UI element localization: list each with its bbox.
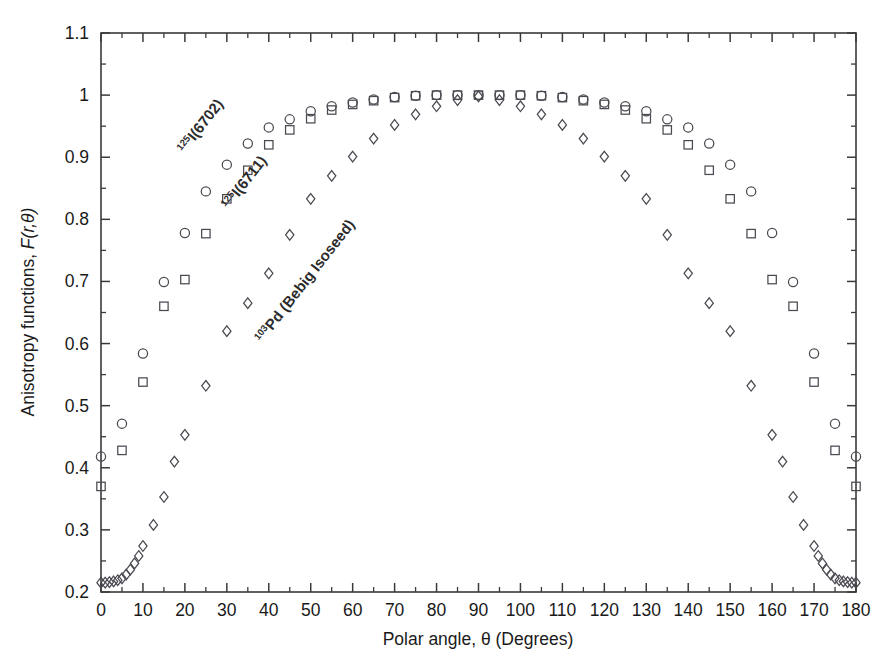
data-point-square bbox=[726, 195, 734, 203]
series-circle bbox=[96, 91, 860, 462]
data-point-diamond bbox=[810, 541, 818, 552]
data-point-square bbox=[831, 446, 839, 454]
data-point-diamond bbox=[328, 171, 336, 182]
x-tick-label: 160 bbox=[758, 600, 787, 620]
data-series-markers bbox=[96, 91, 860, 588]
x-axis-title: Polar angle, θ (Degrees) bbox=[383, 629, 574, 649]
data-point-diamond bbox=[202, 380, 210, 391]
data-point-diamond bbox=[642, 194, 650, 205]
data-point-diamond bbox=[432, 101, 440, 112]
data-point-square bbox=[202, 229, 210, 237]
data-point-square bbox=[768, 275, 776, 283]
data-point-diamond bbox=[835, 575, 843, 586]
data-point-circle bbox=[348, 98, 357, 107]
data-point-circle bbox=[705, 139, 714, 148]
data-point-diamond bbox=[663, 230, 671, 241]
y-title-symbol: F(r,θ) bbox=[18, 208, 38, 250]
data-point-circle bbox=[159, 277, 168, 286]
x-tick-label: 60 bbox=[343, 600, 363, 620]
data-point-circle bbox=[411, 91, 420, 100]
annotation-i125-6702: 125I(6702) bbox=[173, 95, 226, 156]
data-point-diamond bbox=[726, 326, 734, 337]
data-point-diamond bbox=[684, 268, 692, 279]
data-point-diamond bbox=[265, 268, 273, 279]
data-point-diamond bbox=[307, 194, 315, 205]
data-point-circle bbox=[830, 419, 839, 428]
x-tick-label: 80 bbox=[427, 600, 447, 620]
series-square bbox=[97, 91, 860, 491]
data-point-diamond bbox=[370, 133, 378, 144]
data-point-circle bbox=[516, 91, 525, 100]
x-tick-label: 180 bbox=[841, 600, 870, 620]
y-title-prefix: Anisotropy functions, bbox=[18, 249, 38, 416]
data-point-circle bbox=[726, 160, 735, 169]
data-point-diamond bbox=[114, 575, 122, 586]
data-point-square bbox=[705, 166, 713, 174]
x-tick-label: 50 bbox=[301, 600, 321, 620]
data-point-square bbox=[684, 141, 692, 149]
x-tick-label: 40 bbox=[259, 600, 279, 620]
data-point-square bbox=[139, 378, 147, 386]
anisotropy-function-figure: 0102030405060708090100110120130140150160… bbox=[0, 0, 890, 671]
scatter-plot-canvas: 0102030405060708090100110120130140150160… bbox=[0, 0, 890, 671]
data-point-circle bbox=[117, 419, 126, 428]
data-point-diamond bbox=[160, 492, 168, 503]
annotation-text: I(6711) bbox=[228, 152, 270, 199]
data-point-square bbox=[789, 302, 797, 310]
data-point-circle bbox=[264, 123, 273, 132]
data-point-diamond bbox=[747, 380, 755, 391]
x-tick-label: 10 bbox=[133, 600, 153, 620]
x-axis-tick-labels: 0102030405060708090100110120130140150160… bbox=[96, 600, 871, 620]
annotation-pd103-bebig: 103Pd (Bebig Isoseed) bbox=[251, 216, 358, 346]
data-point-circle bbox=[243, 139, 252, 148]
x-tick-label: 70 bbox=[385, 600, 405, 620]
data-point-circle bbox=[180, 228, 189, 237]
data-point-diamond bbox=[789, 492, 797, 503]
data-point-circle bbox=[600, 98, 609, 107]
data-point-square bbox=[747, 229, 755, 237]
data-point-circle bbox=[285, 115, 294, 124]
data-point-circle bbox=[138, 349, 147, 358]
y-tick-label: 0.2 bbox=[65, 582, 89, 602]
y-tick-label: 0.9 bbox=[65, 147, 89, 167]
data-point-circle bbox=[809, 349, 818, 358]
data-point-diamond bbox=[558, 120, 566, 131]
y-axis-tick-labels: 0.20.30.40.50.60.70.80.911.1 bbox=[65, 23, 90, 602]
data-point-diamond bbox=[181, 430, 189, 441]
y-tick-label: 0.8 bbox=[65, 209, 89, 229]
x-tick-label: 170 bbox=[799, 600, 828, 620]
series-diamond bbox=[97, 91, 860, 588]
y-tick-label: 1 bbox=[79, 85, 89, 105]
x-tick-label: 30 bbox=[217, 600, 237, 620]
y-tick-label: 0.3 bbox=[65, 520, 89, 540]
x-tick-label: 110 bbox=[548, 600, 576, 620]
data-point-circle bbox=[684, 123, 693, 132]
data-point-diamond bbox=[139, 541, 147, 552]
annotation-text: Pd (Bebig Isoseed) bbox=[261, 216, 358, 333]
x-tick-label: 0 bbox=[96, 600, 106, 620]
data-point-circle bbox=[432, 91, 441, 100]
y-axis-title: Anisotropy functions, F(r,θ) bbox=[18, 208, 38, 417]
data-point-diamond bbox=[600, 151, 608, 162]
data-point-square bbox=[181, 275, 189, 283]
y-tick-label: 1.1 bbox=[65, 23, 89, 43]
data-point-diamond bbox=[537, 109, 545, 120]
y-tick-label: 0.7 bbox=[65, 271, 89, 291]
data-point-diamond bbox=[621, 171, 629, 182]
data-point-diamond bbox=[286, 230, 294, 241]
data-point-circle bbox=[222, 160, 231, 169]
series-annotations: 125I(6702)125I(6711)103Pd (Bebig Isoseed… bbox=[173, 95, 357, 345]
data-point-square bbox=[810, 378, 818, 386]
data-point-diamond bbox=[411, 109, 419, 120]
data-point-diamond bbox=[516, 101, 524, 112]
annotation-text: I(6702) bbox=[184, 96, 227, 144]
y-tick-label: 0.5 bbox=[65, 396, 89, 416]
data-point-diamond bbox=[579, 133, 587, 144]
data-point-square bbox=[160, 302, 168, 310]
x-tick-label: 90 bbox=[469, 600, 489, 620]
data-point-circle bbox=[537, 91, 546, 100]
data-point-diamond bbox=[126, 564, 134, 575]
data-point-diamond bbox=[799, 520, 807, 531]
data-point-diamond bbox=[170, 456, 178, 467]
data-point-square bbox=[663, 126, 671, 134]
